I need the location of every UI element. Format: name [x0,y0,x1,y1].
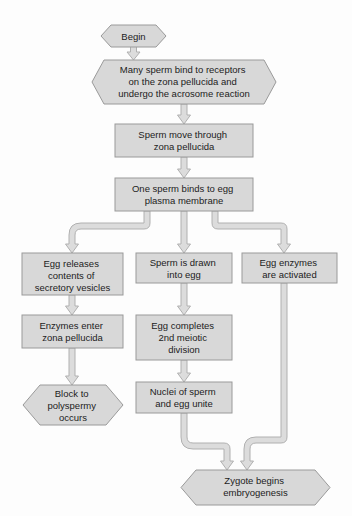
edge-begin-to-many-sperm-bind [127,46,140,60]
edge-sperm-drawn-to-egg-completes [178,283,191,315]
node-begin-label: Begin [121,30,145,41]
edge-one-sperm-to-egg-releases [66,211,151,253]
node-sperm-drawn-into-egg[interactable]: Sperm is drawn into egg [136,253,232,283]
node-many-sperm-bind[interactable]: Many sperm bind to receptors on the zona… [92,60,276,104]
edge-many-sperm-bind-to-sperm-move [178,104,191,124]
edge-one-sperm-to-egg-enzymes [212,211,291,253]
node-zygote-begins-label: Zygote begins embryogenesis [223,475,288,498]
node-many-sperm-bind-label: Many sperm bind to receptors on the zona… [118,64,250,99]
node-zygote-begins[interactable]: Zygote begins embryogenesis [181,470,330,505]
edge-egg-completes-to-nuclei-unite [178,360,191,382]
flowchart-canvas: Begin Many sperm bind to receptors on th… [0,0,352,516]
flowchart-page: Begin Many sperm bind to receptors on th… [0,0,352,516]
node-sperm-move-through[interactable]: Sperm move through zona pellucida [115,124,253,157]
edge-nuclei-unite-to-zygote [181,413,234,470]
node-egg-releases-contents[interactable]: Egg releases contents of secretory vesic… [22,253,123,295]
node-begin[interactable]: Begin [101,25,166,47]
node-one-sperm-binds-label: One sperm binds to egg plasma membrane [132,182,236,205]
edge-enzymes-enter-to-block [66,348,79,385]
node-egg-enzymes-activated-label: Egg enzymes are activated [259,257,319,280]
edge-one-sperm-to-sperm-drawn [178,211,191,253]
node-enzymes-enter-zona[interactable]: Enzymes enter zona pellucida [22,315,123,348]
edge-sperm-move-to-one-sperm-binds [178,157,191,178]
node-one-sperm-binds[interactable]: One sperm binds to egg plasma membrane [115,178,253,211]
node-nuclei-unite-label: Nuclei of sperm and egg unite [150,386,219,409]
nodes-layer: Begin Many sperm bind to receptors on th… [22,25,337,505]
node-nuclei-unite[interactable]: Nuclei of sperm and egg unite [136,382,232,413]
node-egg-completes-meiosis[interactable]: Egg completes 2nd meiotic division [136,315,232,360]
node-egg-enzymes-activated[interactable]: Egg enzymes are activated [242,253,337,283]
node-enzymes-enter-zona-label: Enzymes enter zona pellucida [39,319,105,342]
edge-egg-enzymes-to-zygote [241,283,288,470]
node-block-to-polyspermy[interactable]: Block to polyspermy occurs [23,385,123,425]
edge-egg-releases-to-enzymes-enter [66,295,79,315]
